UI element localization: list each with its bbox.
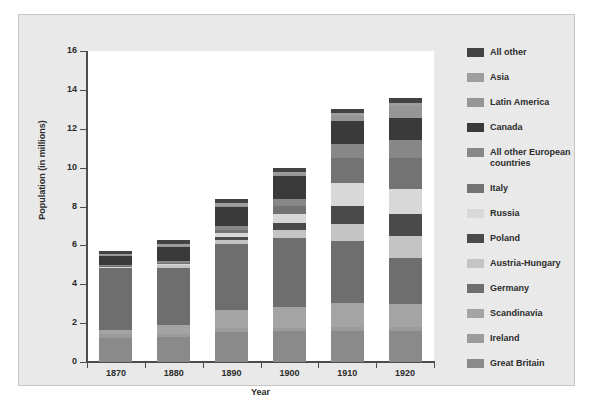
bar-segment-all-other-european-countries bbox=[157, 261, 190, 263]
bar-segment-latin-america bbox=[389, 106, 422, 118]
legend-item-ireland[interactable]: Ireland bbox=[467, 333, 520, 344]
legend-label: Asia bbox=[490, 72, 509, 83]
bar-segment-all-other bbox=[215, 199, 248, 203]
bar-segment-austria-hungary bbox=[389, 236, 422, 257]
bar-segment-italy bbox=[157, 263, 190, 264]
x-axis-tick bbox=[376, 363, 377, 368]
bar-segment-asia bbox=[273, 172, 306, 175]
y-axis-tick-label: 2 bbox=[57, 318, 77, 327]
legend-item-poland[interactable]: Poland bbox=[467, 233, 520, 244]
bar-segment-canada bbox=[99, 256, 132, 266]
bar-segment-austria-hungary bbox=[331, 224, 364, 241]
bar-segment-all-other-european-countries bbox=[99, 265, 132, 266]
legend-item-russia[interactable]: Russia bbox=[467, 208, 520, 219]
bar-segment-austria-hungary bbox=[215, 240, 248, 245]
legend-label: Scandinavia bbox=[490, 308, 543, 319]
x-axis-tick bbox=[203, 363, 204, 368]
legend-label: Germany bbox=[490, 283, 529, 294]
legend-item-great-britain[interactable]: Great Britain bbox=[467, 358, 545, 369]
bar-segment-poland bbox=[273, 223, 306, 230]
bar-segment-russia bbox=[157, 264, 190, 265]
x-axis-tick-label: 1870 bbox=[93, 369, 139, 378]
x-axis-tick bbox=[261, 363, 262, 368]
y-axis-tick bbox=[80, 129, 86, 130]
bar-segment-ireland bbox=[157, 334, 190, 337]
bar-segment-all-other bbox=[331, 109, 364, 113]
legend-item-asia[interactable]: Asia bbox=[467, 72, 509, 83]
y-axis-tick bbox=[80, 362, 86, 363]
bar-segment-austria-hungary bbox=[99, 267, 132, 268]
x-axis-tick bbox=[145, 363, 146, 368]
y-axis-tick bbox=[80, 245, 86, 246]
bar-segment-latin-america bbox=[215, 206, 248, 207]
bar-segment-scandinavia bbox=[99, 330, 132, 335]
legend-swatch-icon bbox=[467, 98, 484, 107]
legend-swatch-icon bbox=[467, 309, 484, 318]
legend-swatch-icon bbox=[467, 123, 484, 132]
bar-segment-canada bbox=[157, 247, 190, 261]
legend-swatch-icon bbox=[467, 234, 484, 243]
bar-segment-poland bbox=[389, 214, 422, 236]
legend-item-scandinavia[interactable]: Scandinavia bbox=[467, 308, 543, 319]
bar-segment-germany bbox=[99, 268, 132, 330]
bar-segment-great-britain bbox=[331, 331, 364, 362]
y-axis-tick bbox=[80, 284, 86, 285]
y-axis-tick-label: 8 bbox=[57, 202, 77, 211]
bar-segment-latin-america bbox=[157, 246, 190, 247]
bar-segment-poland bbox=[215, 237, 248, 240]
legend-item-austria-hungary[interactable]: Austria-Hungary bbox=[467, 258, 561, 269]
legend-swatch-icon bbox=[467, 259, 484, 268]
legend-swatch-icon bbox=[467, 148, 484, 157]
bar-segment-scandinavia bbox=[273, 307, 306, 328]
legend-label: Italy bbox=[490, 183, 508, 194]
x-axis-tick bbox=[87, 363, 88, 368]
legend-swatch-icon bbox=[467, 284, 484, 293]
bar-segment-ireland bbox=[215, 328, 248, 332]
y-axis-tick-label: 4 bbox=[57, 279, 77, 288]
bar-segment-germany bbox=[273, 238, 306, 306]
bar-segment-ireland bbox=[389, 327, 422, 330]
bar-segment-great-britain bbox=[389, 331, 422, 362]
bar-1870 bbox=[99, 51, 132, 362]
bar-segment-canada bbox=[331, 121, 364, 145]
bar-segment-all-other-european-countries bbox=[389, 140, 422, 158]
bar-segment-germany bbox=[331, 241, 364, 303]
legend-item-all-other-european-countries[interactable]: All other European countries bbox=[467, 147, 571, 169]
bar-segment-germany bbox=[389, 258, 422, 304]
y-axis-label: Population (in millions) bbox=[37, 85, 47, 255]
bar-segment-austria-hungary bbox=[273, 230, 306, 238]
bar-segment-russia bbox=[389, 189, 422, 215]
bar-segment-asia bbox=[99, 254, 132, 255]
x-axis-tick bbox=[318, 363, 319, 368]
legend-swatch-icon bbox=[467, 334, 484, 343]
bar-1890 bbox=[215, 51, 248, 362]
chart-panel: 0246810121416 187018801890190019101920 Y… bbox=[18, 14, 575, 386]
legend-item-germany[interactable]: Germany bbox=[467, 283, 529, 294]
bar-segment-great-britain bbox=[157, 337, 190, 362]
bar-segment-russia bbox=[331, 183, 364, 206]
bar-segment-asia bbox=[157, 244, 190, 246]
bar-segment-russia bbox=[273, 214, 306, 222]
legend-label: Poland bbox=[490, 233, 520, 244]
y-axis-tick bbox=[80, 207, 86, 208]
bar-segment-germany bbox=[215, 244, 248, 310]
bar-segment-all-other bbox=[273, 168, 306, 171]
x-axis-tick-label: 1900 bbox=[266, 369, 312, 378]
bar-segment-ireland bbox=[99, 334, 132, 338]
bar-1880 bbox=[157, 51, 190, 362]
bar-segment-all-other bbox=[157, 240, 190, 244]
bar-segment-italy bbox=[331, 158, 364, 183]
bar-segment-asia bbox=[389, 103, 422, 106]
y-axis-tick-label: 10 bbox=[57, 163, 77, 172]
x-axis-tick-label: 1880 bbox=[151, 369, 197, 378]
legend-item-latin-america[interactable]: Latin America bbox=[467, 97, 549, 108]
legend-item-all-other[interactable]: All other bbox=[467, 47, 527, 58]
legend-label: Canada bbox=[490, 122, 523, 133]
legend-item-italy[interactable]: Italy bbox=[467, 183, 508, 194]
y-axis-tick-label: 0 bbox=[57, 357, 77, 366]
bar-segment-great-britain bbox=[273, 331, 306, 362]
legend-label: Austria-Hungary bbox=[490, 258, 561, 269]
y-axis-tick-label: 16 bbox=[57, 46, 77, 55]
legend-item-canada[interactable]: Canada bbox=[467, 122, 523, 133]
bar-segment-poland bbox=[331, 206, 364, 224]
